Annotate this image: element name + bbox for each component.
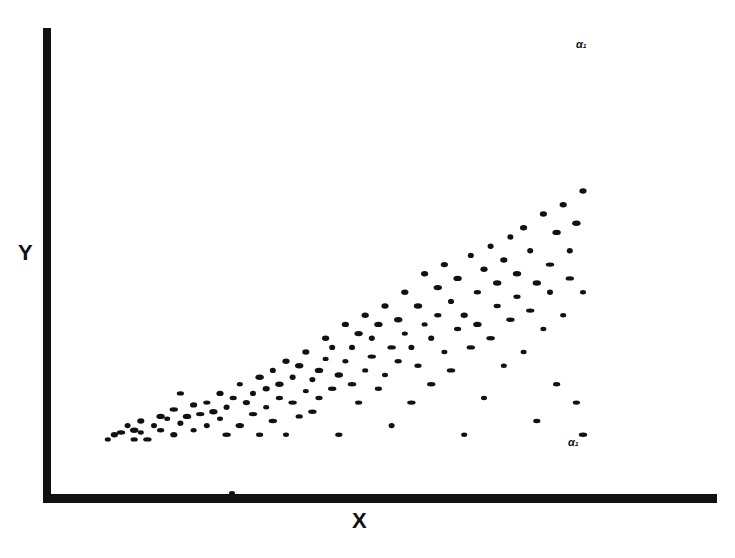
data-point — [131, 437, 138, 441]
data-point — [540, 327, 546, 331]
data-point — [224, 405, 230, 410]
data-point — [369, 336, 375, 341]
data-point — [441, 350, 447, 354]
data-point — [427, 382, 435, 386]
data-point — [533, 280, 541, 285]
data-point — [269, 419, 277, 423]
data-point — [402, 331, 408, 335]
data-point — [196, 412, 204, 416]
data-point — [454, 327, 461, 331]
data-point — [263, 386, 270, 391]
data-point — [387, 345, 395, 349]
data-point — [151, 423, 157, 428]
data-point — [421, 271, 428, 276]
data-point — [303, 389, 309, 393]
data-point — [137, 418, 144, 423]
data-point — [203, 400, 210, 404]
data-point — [362, 313, 369, 318]
data-point — [315, 368, 323, 373]
data-point — [315, 396, 322, 400]
data-point — [547, 290, 553, 295]
data-point — [335, 372, 343, 377]
data-point — [170, 407, 178, 411]
data-point — [441, 262, 448, 267]
annotation-bottom: α₁ — [568, 436, 579, 448]
data-point — [494, 304, 501, 308]
data-point — [488, 244, 494, 249]
annotation-top: α₁ — [576, 38, 587, 50]
data-point — [414, 364, 421, 368]
data-point — [249, 412, 257, 416]
data-point — [552, 230, 560, 235]
data-point — [217, 417, 223, 421]
data-point — [434, 313, 441, 317]
data-point — [170, 432, 177, 437]
data-point — [157, 428, 164, 432]
data-point — [408, 345, 414, 350]
data-point — [255, 375, 263, 380]
data-point — [447, 368, 455, 372]
data-point — [473, 322, 481, 327]
data-point — [328, 387, 336, 391]
data-point — [342, 359, 348, 363]
data-point — [467, 345, 475, 349]
outlier-point — [229, 491, 235, 495]
data-point — [553, 382, 560, 386]
data-point — [486, 336, 494, 340]
data-point — [237, 382, 243, 386]
data-point — [290, 375, 296, 380]
data-point — [453, 276, 461, 281]
data-point — [407, 400, 415, 404]
data-point — [222, 433, 230, 437]
data-point — [481, 396, 487, 400]
data-point — [566, 276, 574, 280]
data-point — [143, 437, 151, 441]
data-point — [579, 433, 587, 437]
data-point — [501, 364, 507, 368]
data-point — [480, 267, 487, 272]
data-point — [283, 433, 289, 437]
data-point — [288, 400, 296, 404]
data-point — [573, 400, 580, 404]
data-point — [156, 414, 164, 419]
data-point — [177, 421, 183, 426]
data-point — [190, 402, 197, 407]
data-point — [204, 423, 210, 428]
data-point — [296, 414, 303, 418]
data-point — [117, 430, 125, 434]
data-point — [362, 368, 368, 372]
data-point — [580, 290, 586, 294]
data-point — [579, 188, 586, 193]
data-point — [263, 405, 269, 409]
data-point — [105, 437, 111, 441]
data-point — [395, 359, 402, 363]
data-point — [567, 248, 573, 253]
data-point — [177, 391, 184, 395]
data-point — [354, 331, 362, 336]
data-point — [526, 308, 534, 312]
x-axis-line — [43, 494, 717, 503]
data-point — [209, 409, 217, 414]
data-point — [461, 313, 468, 318]
data-point — [295, 363, 303, 368]
data-point — [506, 318, 514, 322]
data-point — [368, 354, 376, 358]
data-point — [448, 299, 454, 304]
data-point — [309, 377, 315, 382]
data-point — [546, 262, 554, 266]
y-axis-line — [43, 28, 51, 502]
data-point — [302, 349, 309, 354]
data-point — [474, 290, 481, 294]
data-point — [513, 271, 521, 276]
data-point — [540, 211, 547, 216]
data-point — [507, 234, 513, 239]
data-point — [138, 430, 144, 434]
data-point — [323, 357, 329, 361]
data-point — [374, 322, 382, 327]
data-point — [520, 225, 527, 230]
data-point — [282, 359, 289, 364]
data-point — [560, 313, 566, 317]
data-point — [130, 428, 138, 433]
data-point — [461, 433, 467, 437]
data-point — [381, 303, 388, 308]
